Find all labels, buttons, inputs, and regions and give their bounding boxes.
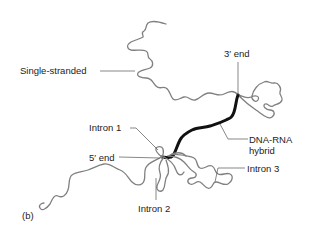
leader-intron-1 xyxy=(130,128,158,150)
dna-rna-hybrid-diagram xyxy=(0,0,310,231)
single-stranded-dna-right-loops xyxy=(238,81,282,117)
label-3prime-end: 3′ end xyxy=(224,48,250,59)
label-dna-rna-hybrid-line1: DNA-RNA xyxy=(249,134,292,145)
label-intron-1: Intron 1 xyxy=(89,122,121,133)
single-stranded-dna-upper xyxy=(128,21,238,100)
leader-5prime-end xyxy=(119,157,160,158)
leader-dna-rna-hybrid xyxy=(220,124,248,139)
intron-3-loop xyxy=(168,154,232,188)
intron-2-loop xyxy=(157,157,169,191)
label-single-stranded: Single-stranded xyxy=(20,65,87,76)
label-intron-2: Intron 2 xyxy=(138,203,170,214)
label-dna-rna-hybrid-line2: hybrid xyxy=(249,145,275,156)
single-stranded-dna-5prime-tail xyxy=(39,157,162,210)
label-intron-3: Intron 3 xyxy=(247,163,279,174)
label-5prime-end: 5′ end xyxy=(89,152,115,163)
intron-1-loop xyxy=(156,147,164,157)
panel-label: (b) xyxy=(22,210,34,221)
dna-rna-hybrid-strand xyxy=(162,95,238,158)
